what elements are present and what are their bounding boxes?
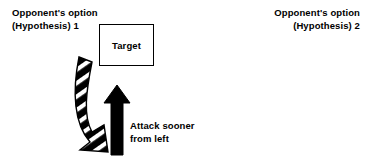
caption-line-1: Opponent's option [274, 7, 360, 18]
opponent-striped-arrow-left [75, 57, 108, 152]
tactical-options-figure: Opponent's option (Hypothesis) 1 Target [0, 0, 368, 166]
panel-hypothesis-2: Opponent's option (Hypothesis) 2 Target [184, 0, 368, 166]
caption-line-2: (Hypothesis) 2 [274, 20, 360, 33]
panel-hypothesis-1: Opponent's option (Hypothesis) 1 Target [0, 0, 184, 166]
own-solid-arrow-left [104, 85, 130, 155]
caption-hypothesis-2: Opponent's option (Hypothesis) 2 [274, 7, 360, 32]
